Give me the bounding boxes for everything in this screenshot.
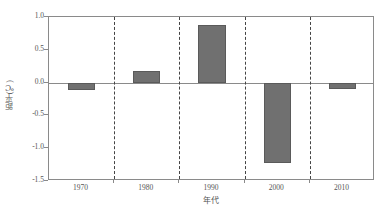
y-tick-mark xyxy=(44,180,48,181)
x-tick-mark xyxy=(244,180,245,183)
decade-divider xyxy=(179,17,180,179)
bar-1970 xyxy=(68,83,95,91)
x-tick-label: 2000 xyxy=(246,183,306,193)
bar-1980 xyxy=(133,71,160,83)
x-axis-title-label: 年代 xyxy=(203,196,219,205)
y-tick-label: -0.5 xyxy=(16,110,44,118)
x-tick-mark xyxy=(178,180,179,183)
plot-area xyxy=(48,16,374,180)
x-tick-label: 2010 xyxy=(311,183,371,193)
decade-divider xyxy=(114,17,115,179)
bar-1990 xyxy=(198,25,225,83)
x-axis-title: 年代 xyxy=(48,196,374,206)
x-tick-label: 1990 xyxy=(181,183,241,193)
y-axis-tick-labels: 1.00.50.0-0.5-1.0-1.5 xyxy=(16,0,44,224)
decade-divider xyxy=(245,17,246,179)
y-tick-label: 0.0 xyxy=(16,78,44,86)
y-tick-mark xyxy=(44,147,48,148)
y-axis-title-label: 距平(℃) xyxy=(4,80,15,110)
x-tick-label: 1970 xyxy=(51,183,111,193)
bar-2010 xyxy=(329,83,356,90)
x-tick-mark xyxy=(113,180,114,183)
y-tick-label: -1.5 xyxy=(16,176,44,184)
y-tick-mark xyxy=(44,16,48,17)
y-tick-mark xyxy=(44,114,48,115)
zero-baseline xyxy=(49,83,373,84)
decade-divider xyxy=(310,17,311,179)
x-tick-mark xyxy=(309,180,310,183)
y-tick-mark xyxy=(44,82,48,83)
y-tick-label: -1.0 xyxy=(16,143,44,151)
x-tick-label: 1980 xyxy=(116,183,176,193)
y-tick-mark xyxy=(44,49,48,50)
bar-2000 xyxy=(264,83,291,163)
x-axis-tick-labels: 19701980199020002010 xyxy=(48,183,374,195)
y-tick-label: 1.0 xyxy=(16,12,44,20)
bar-chart-figure: 距平(℃) 1.00.50.0-0.5-1.0-1.5 197019801990… xyxy=(0,0,384,224)
y-tick-label: 0.5 xyxy=(16,45,44,53)
